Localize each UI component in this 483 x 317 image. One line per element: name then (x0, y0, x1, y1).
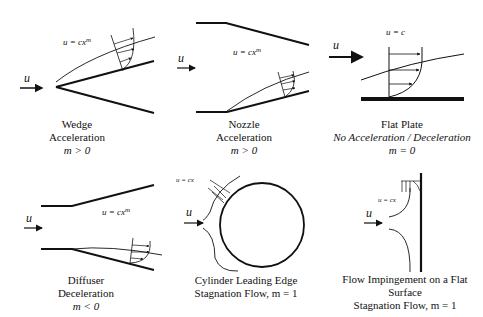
equation-label: u = cxm (102, 206, 130, 217)
inflow-label: u (366, 206, 372, 220)
panel-title: Nozzle (228, 118, 259, 130)
inflow-label: u (26, 211, 32, 225)
equation-label: u = c (386, 27, 405, 37)
cylinder-shape (220, 183, 304, 267)
equation-label: u = cx (378, 196, 397, 204)
inflow-label: u (186, 205, 192, 219)
panel-subtitle: No Acceleration / Deceleration (332, 131, 471, 143)
inflow-label: u (24, 71, 30, 85)
equation-label: u = cxm (63, 36, 91, 47)
velocity-profile (123, 28, 134, 69)
boundary-layer-edge (227, 72, 309, 111)
streamline-lower (389, 229, 410, 272)
panel-impingement: u u = cx Flow Impingement on a Flat Surf… (342, 173, 467, 311)
panel-condition: m > 0 (64, 144, 91, 156)
flat-plate-surface (361, 97, 464, 101)
panel-subtitle: Acceleration (49, 131, 106, 143)
panel-wedge: u u = cxm Wedge Acceleration m > 0 (20, 28, 155, 156)
panel-title: Flat Plate (381, 118, 423, 130)
panel-title: Wedge (62, 118, 92, 130)
inflow-label: u (333, 38, 339, 52)
panel-nozzle: u u = cxm Nozzle Acceleration m > 0 (177, 23, 309, 156)
panel-title: Flow Impingement on a Flat (342, 273, 467, 285)
panel-condition: m = 0 (389, 144, 416, 156)
diffuser-upper-wall (41, 185, 154, 206)
boundary-layer-edge (361, 54, 464, 80)
panel-cylinder: u u = cx Cylinder Leading Edge Stagnatio… (176, 176, 304, 299)
panel-subtitle: Deceleration (58, 287, 115, 299)
panel-flat-plate: u u = c Flat Plate No Acceleration / Dec… (329, 27, 471, 156)
diagram-canvas: u u = cxm Wedge Acceleration m > 0 u u =… (0, 0, 483, 317)
inflow-label: u (178, 51, 184, 65)
panel-title: Cylinder Leading Edge (195, 274, 298, 286)
panel-subtitle: Surface (388, 286, 422, 298)
equation-label: u = cxm (233, 46, 261, 57)
nozzle-upper-wall (196, 23, 309, 45)
equation-label: u = cx (176, 176, 195, 184)
panel-condition: m < 0 (73, 300, 100, 312)
panel-condition: Stagnation Flow, m = 1 (354, 299, 457, 311)
panel-subtitle: Acceleration (216, 131, 273, 143)
panel-subtitle: Stagnation Flow, m = 1 (195, 287, 298, 299)
panel-condition: m > 0 (231, 144, 258, 156)
wedge-lower-surface (56, 87, 154, 113)
panel-title: Diffuser (68, 274, 105, 286)
velocity-profile (389, 62, 422, 97)
panel-diffuser: u u = cxm Diffuser Deceleration m < 0 (24, 185, 162, 312)
wedge-upper-surface (56, 61, 154, 87)
